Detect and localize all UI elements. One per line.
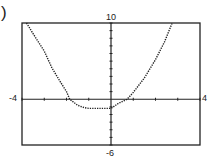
- ymin-label: -6: [106, 149, 114, 158]
- graph-plot: [0, 0, 209, 161]
- graph-curve: [27, 23, 173, 108]
- xmin-label: -4: [9, 94, 17, 103]
- xmax-label: 4: [202, 94, 207, 103]
- ymax-label: 10: [106, 13, 116, 22]
